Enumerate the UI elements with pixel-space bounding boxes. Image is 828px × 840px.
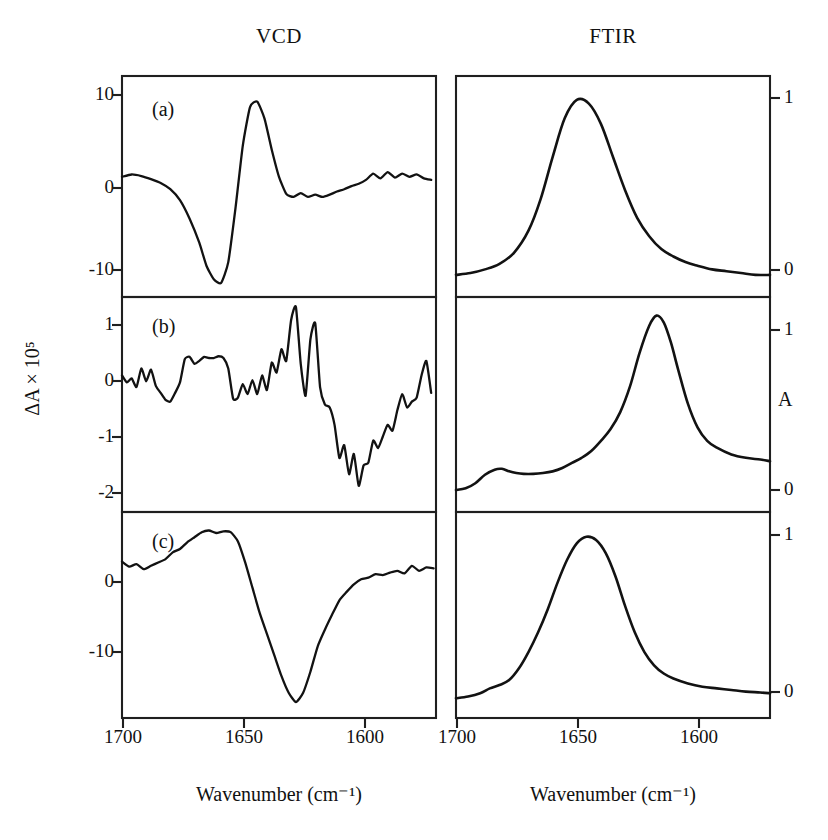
- right-axis-ticks: [770, 98, 780, 692]
- trace-ftir-c: [456, 537, 770, 699]
- panel-c-vcd-frame: [122, 512, 436, 718]
- trace-ftir-b: [456, 316, 770, 490]
- spectra-figure: VCD FTIR ΔA × 10⁵ A Wavenumber (cm⁻¹) Wa…: [0, 0, 828, 840]
- x-axis-ticks-left: [123, 718, 365, 728]
- panel-c-ftir-frame: [456, 512, 770, 718]
- trace-ftir-a: [456, 99, 770, 275]
- left-axis-ticks: [112, 95, 122, 652]
- trace-vcd-b: [122, 306, 431, 486]
- trace-vcd-c: [122, 530, 434, 702]
- panel-b-ftir-frame: [456, 297, 770, 512]
- plot-canvas: [0, 0, 828, 840]
- spectra-traces: [122, 99, 770, 702]
- panel-a-vcd-frame: [122, 76, 436, 297]
- panel-b-vcd-frame: [122, 297, 436, 512]
- panel-a-ftir-frame: [456, 76, 770, 297]
- x-axis-ticks-right: [457, 718, 699, 728]
- trace-vcd-a: [122, 101, 431, 283]
